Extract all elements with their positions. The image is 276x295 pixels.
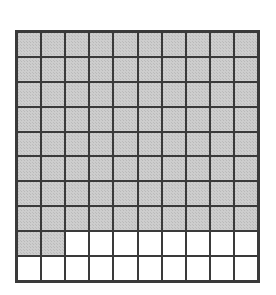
grid-cell	[18, 257, 40, 280]
grid-cell	[139, 58, 161, 81]
grid-cell	[235, 83, 257, 106]
grid-cell	[139, 108, 161, 131]
grid-cell	[90, 133, 112, 156]
grid-cell	[163, 257, 185, 280]
grid-cell	[235, 133, 257, 156]
grid-cell	[18, 207, 40, 230]
grid-cell	[163, 133, 185, 156]
grid-cell	[18, 133, 40, 156]
grid-cell	[139, 33, 161, 56]
grid-cell	[211, 58, 233, 81]
grid-cell	[211, 207, 233, 230]
grid-cell	[235, 182, 257, 205]
grid-cell	[18, 83, 40, 106]
grid-cell	[163, 157, 185, 180]
grid-cell	[90, 207, 112, 230]
grid-cell	[114, 58, 136, 81]
grid-cell	[139, 207, 161, 230]
grid-cell	[66, 133, 88, 156]
grid-cell	[139, 182, 161, 205]
grid-cell	[90, 182, 112, 205]
grid-cell	[211, 33, 233, 56]
grid-cell	[114, 133, 136, 156]
grid-cell	[211, 257, 233, 280]
grid-cell	[66, 182, 88, 205]
grid-cell	[163, 58, 185, 81]
grid-cell	[42, 207, 64, 230]
grid-cell	[211, 83, 233, 106]
grid-cell	[66, 58, 88, 81]
grid-cell	[42, 182, 64, 205]
hundredths-grid	[15, 30, 260, 283]
grid-cell	[18, 157, 40, 180]
grid-cell	[114, 108, 136, 131]
grid-cell	[187, 108, 209, 131]
grid-cell	[139, 83, 161, 106]
grid-cell	[114, 207, 136, 230]
grid-cell	[163, 33, 185, 56]
grid-cell	[90, 58, 112, 81]
grid-cell	[139, 133, 161, 156]
grid-cell	[66, 108, 88, 131]
grid-cell	[114, 83, 136, 106]
grid-cell	[66, 157, 88, 180]
grid-cell	[114, 182, 136, 205]
grid-cell	[90, 232, 112, 255]
grid-cell	[114, 257, 136, 280]
grid-cell	[187, 182, 209, 205]
grid-cell	[139, 157, 161, 180]
grid-cell	[187, 157, 209, 180]
grid-cell	[90, 83, 112, 106]
grid-cell	[18, 232, 40, 255]
grid-cell	[211, 133, 233, 156]
grid-cell	[211, 232, 233, 255]
grid-cell	[163, 207, 185, 230]
grid-cell	[18, 33, 40, 56]
grid-cell	[42, 83, 64, 106]
grid-cell	[114, 157, 136, 180]
grid-cell	[42, 257, 64, 280]
grid-cell	[235, 232, 257, 255]
grid-cell	[139, 257, 161, 280]
grid-cell	[66, 257, 88, 280]
grid-cell	[139, 232, 161, 255]
grid-cell	[90, 257, 112, 280]
grid-cell	[235, 207, 257, 230]
grid-cell	[235, 108, 257, 131]
grid-cell	[42, 108, 64, 131]
grid-cell	[114, 232, 136, 255]
grid-cell	[42, 58, 64, 81]
grid-cell	[211, 157, 233, 180]
grid-cell	[42, 232, 64, 255]
grid-cell	[187, 58, 209, 81]
grid-cell	[66, 232, 88, 255]
grid-cell	[18, 108, 40, 131]
grid-cell	[66, 83, 88, 106]
grid-cell	[18, 58, 40, 81]
grid-cell	[66, 207, 88, 230]
grid-cell	[42, 133, 64, 156]
grid-cell	[90, 157, 112, 180]
grid-cell	[187, 33, 209, 56]
grid-cell	[187, 83, 209, 106]
grid-cell	[235, 157, 257, 180]
grid-cell	[114, 33, 136, 56]
grid-cell	[42, 157, 64, 180]
grid-cell	[163, 182, 185, 205]
grid-cell	[235, 58, 257, 81]
grid-cell	[42, 33, 64, 56]
hundredths-grid-figure: A ten by ten square grid with some cells…	[0, 0, 276, 295]
grid-cell	[235, 33, 257, 56]
grid-cell	[187, 207, 209, 230]
grid-cell	[163, 232, 185, 255]
grid-cell	[90, 33, 112, 56]
grid-cell	[66, 33, 88, 56]
grid-cell	[211, 182, 233, 205]
grid-cell	[187, 133, 209, 156]
grid-cell	[90, 108, 112, 131]
grid-cell	[187, 232, 209, 255]
grid-cell	[235, 257, 257, 280]
grid-cell	[163, 108, 185, 131]
grid-cell	[18, 182, 40, 205]
grid-cell	[211, 108, 233, 131]
